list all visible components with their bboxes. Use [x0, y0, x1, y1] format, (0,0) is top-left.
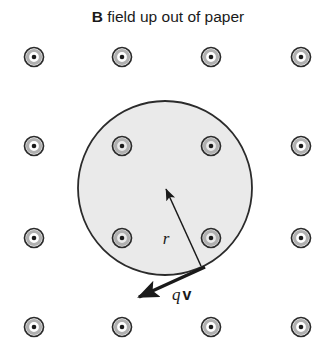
field-out-of-page-icon [113, 48, 132, 67]
radius-label: r [163, 229, 170, 248]
title-rest: field up out of paper [103, 8, 244, 25]
field-out-of-page-icon [202, 318, 221, 337]
field-out-of-page-icon [113, 318, 132, 337]
diagram-title: B field up out of paper [92, 8, 245, 25]
title-bold-B: B [92, 8, 103, 25]
field-out-of-page-icon [292, 318, 311, 337]
field-out-of-page-icon [25, 137, 44, 156]
velocity-label-q: q [172, 285, 181, 304]
field-out-of-page-icon [202, 229, 221, 248]
current-carrying-disk [78, 101, 252, 275]
field-out-of-page-icon [25, 48, 44, 67]
field-out-of-page-icon [113, 137, 132, 156]
field-out-of-page-icon [25, 318, 44, 337]
field-out-of-page-icon [202, 137, 221, 156]
field-out-of-page-icon [292, 48, 311, 67]
magnetic-field-diagram: B field up out of paper r qv [0, 0, 334, 358]
velocity-label-v: v [183, 286, 192, 303]
diagram-canvas: B field up out of paper r qv [0, 0, 334, 358]
field-out-of-page-icon [25, 229, 44, 248]
velocity-label: qv [172, 285, 192, 304]
field-out-of-page-icon [113, 229, 132, 248]
field-out-of-page-icon [292, 229, 311, 248]
field-out-of-page-icon [202, 48, 221, 67]
field-out-of-page-icon [292, 137, 311, 156]
